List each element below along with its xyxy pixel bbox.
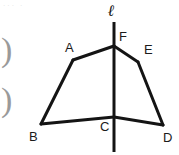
segment-AB xyxy=(41,60,73,124)
segment-CD xyxy=(114,117,163,125)
segment-DE xyxy=(138,62,163,125)
figure-screenshot: ··· · ℓ F A E B C D ) ) xyxy=(0,0,179,155)
segment-EF xyxy=(114,46,138,62)
label-vertex-a: A xyxy=(65,41,74,54)
label-vertex-e: E xyxy=(144,43,153,56)
label-vertex-d: D xyxy=(163,131,172,144)
margin-mark-two: ) xyxy=(1,83,12,117)
label-line-l: ℓ xyxy=(108,3,115,19)
label-vertex-c: C xyxy=(100,120,109,133)
segment-FA xyxy=(73,46,114,60)
label-vertex-b: B xyxy=(29,130,38,143)
label-vertex-f: F xyxy=(119,30,127,43)
margin-mark-one: ) xyxy=(1,33,12,67)
geometry-figure-svg xyxy=(0,0,179,155)
